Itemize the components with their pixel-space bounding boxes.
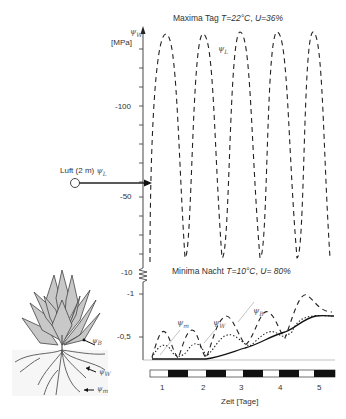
y-tick-label: -10 xyxy=(121,268,133,277)
y-axis xyxy=(139,26,335,360)
y-tick-label: -0,5 xyxy=(117,332,131,341)
title-maxima-humidity: U=36% xyxy=(255,13,283,23)
y-tick-label: -100 xyxy=(115,102,131,111)
title-maxima-temperature: T=22°C xyxy=(221,13,250,23)
title-minima-prefix: Minima Nacht xyxy=(172,266,224,276)
title-maxima-sep: , xyxy=(250,13,252,23)
psi-b-label: ψB xyxy=(253,306,264,317)
title-maxima-prefix: Maxima Tag xyxy=(173,13,219,23)
y-tick-label: -1 xyxy=(127,289,134,298)
plant-illustration xyxy=(12,270,108,396)
psi-m-label: ψm xyxy=(177,318,189,329)
air-label: Luft (2 m) ψL xyxy=(60,166,107,177)
plant-psi-b-label: ψB xyxy=(92,337,102,346)
plant-psi-m-label: ψm xyxy=(97,385,108,394)
y-axis-symbol: ψW xyxy=(130,27,142,38)
x-tick-label: 4 xyxy=(278,383,282,392)
y-tick-label: -50 xyxy=(120,192,132,201)
title-minima-temperature: T=10°C xyxy=(226,266,255,276)
air-arrow xyxy=(71,179,153,188)
x-tick-label: 5 xyxy=(317,383,321,392)
plant-psi-w-label: ψW xyxy=(99,368,111,377)
x-axis-label: Zeit [Tage] xyxy=(221,397,258,406)
psi-l-label: ψL xyxy=(218,44,228,55)
title-minima-humidity: U= 80% xyxy=(260,266,290,276)
x-tick-label: 2 xyxy=(201,383,205,392)
x-tick-label: 1 xyxy=(160,383,164,392)
title-minima-sep: , xyxy=(256,266,258,276)
title-minima: Minima Nacht T=10°C, U= 80% xyxy=(172,266,291,276)
label-pointers xyxy=(160,302,254,355)
day-night-bar xyxy=(150,370,335,377)
diagram-canvas xyxy=(0,0,346,419)
y-axis-unit: [MPa] xyxy=(111,38,132,47)
x-tick-label: 3 xyxy=(239,383,243,392)
psi-l-curve xyxy=(150,32,330,262)
psi-w-label: ψW xyxy=(213,318,225,329)
title-maxima: Maxima Tag T=22°C, U=36% xyxy=(173,13,283,23)
